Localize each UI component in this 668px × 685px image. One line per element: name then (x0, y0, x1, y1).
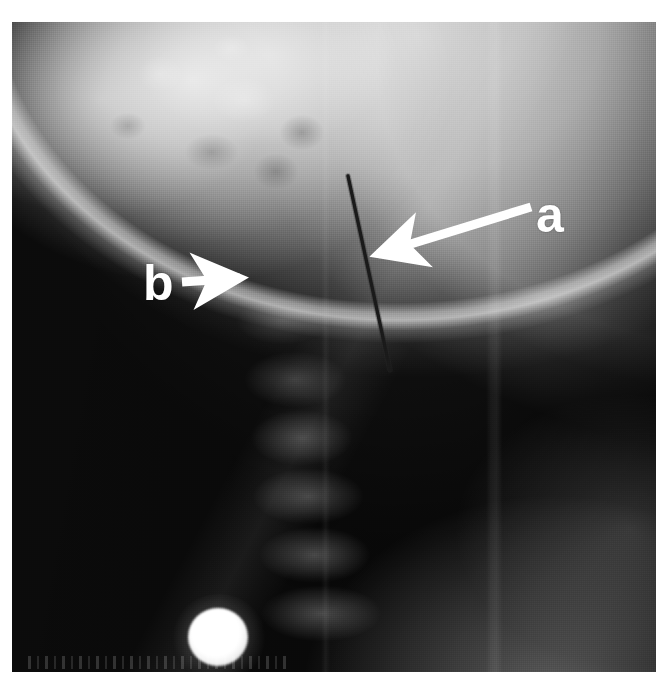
annotation-label-b: b (143, 258, 174, 308)
arrow-b-shaft (182, 278, 240, 282)
annotation-label-a: a (536, 190, 564, 240)
radiograph-plate (12, 22, 656, 672)
film-exposure-strip (28, 656, 288, 669)
film-grain-overlay (12, 22, 656, 672)
arrow-a-shaft (378, 207, 531, 254)
annotation-arrow-a (360, 190, 550, 270)
annotation-arrow-b (178, 258, 268, 304)
figure-canvas: a b (0, 0, 668, 685)
